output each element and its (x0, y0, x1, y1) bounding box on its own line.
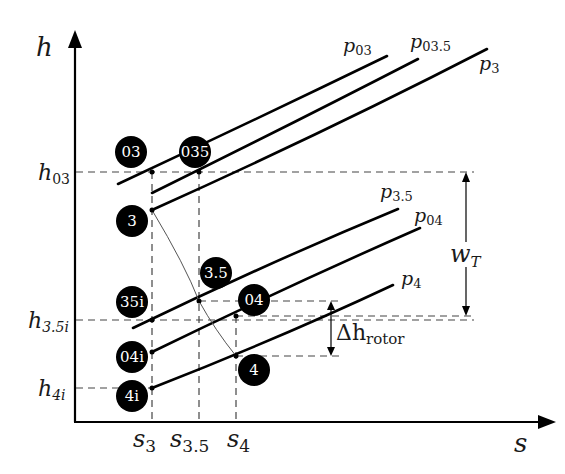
rotor-drop-dimension (327, 301, 335, 356)
y-axis-label: h (36, 32, 53, 62)
p4-label: p4 (401, 267, 421, 291)
svg-text:03: 03 (121, 143, 140, 161)
state-badge-04i: 04i (116, 341, 148, 373)
h-s-diagram: h s h03 h3.5i h4i s3 s3.5 s4 p03 (0, 0, 565, 474)
svg-text:3: 3 (127, 212, 137, 230)
s35-label: s3.5 (170, 425, 209, 456)
p3-label: p3 (479, 52, 499, 76)
h03-label: h03 (38, 160, 70, 187)
state-badge-35i: 35i (116, 286, 148, 318)
svg-text:4: 4 (249, 361, 259, 379)
arrow-down-icon (462, 306, 470, 316)
turbine-work-label: wT (450, 240, 482, 271)
svg-text:4i: 4i (125, 387, 140, 405)
state-badge-4i: 4i (116, 380, 148, 412)
p03-label: p03 (343, 34, 372, 58)
arrow-down-icon (327, 347, 335, 356)
h35i-label: h3.5i (28, 308, 69, 335)
p35-label: p3.5 (380, 180, 413, 204)
p04-label: p04 (414, 204, 443, 228)
state-badge-035: 035 (179, 136, 211, 168)
x-axis-arrow-icon (538, 415, 556, 429)
s4-label: s4 (227, 425, 250, 456)
arrow-up-icon (327, 301, 335, 310)
arrow-up-icon (462, 172, 470, 182)
y-axis-arrow-icon (68, 30, 82, 48)
isobar-p3 (152, 49, 487, 210)
svg-text:04i: 04i (120, 348, 144, 366)
rotor-drop-label: Δhrotor (336, 320, 405, 348)
state-badge-3-5: 3.5 (200, 257, 232, 289)
state-badge-04: 04 (238, 284, 270, 316)
h4i-label: h4i (38, 376, 66, 403)
svg-text:35i: 35i (120, 293, 144, 311)
state-badge-03: 03 (115, 136, 147, 168)
svg-text:04: 04 (244, 291, 263, 309)
p035-label: p03.5 (410, 30, 451, 54)
svg-text:035: 035 (181, 143, 210, 161)
s3-label: s3 (133, 425, 156, 456)
state-badge-4: 4 (238, 354, 270, 386)
state-badge-3: 3 (116, 205, 148, 237)
isobar-p035 (152, 59, 418, 193)
x-axis-label: s (514, 428, 527, 458)
svg-text:3.5: 3.5 (204, 264, 228, 282)
